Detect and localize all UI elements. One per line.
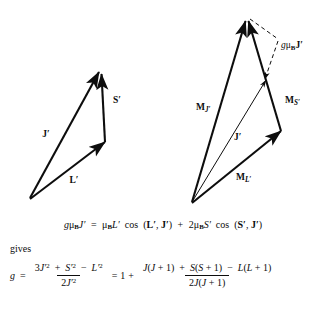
right-vector-diagram: MJ′ MS′ ML′ J′ gμBJ′ <box>192 19 303 203</box>
dashed-projection-to-J-prime <box>265 41 278 79</box>
label-M-S-prime: MS′ <box>285 95 300 107</box>
label-J-prime-right: J′ <box>234 132 242 142</box>
equals-sign-first: = <box>20 270 26 281</box>
equals-sign-second: = <box>112 270 118 281</box>
label-M-L-prime: ML′ <box>236 172 251 184</box>
left-fraction: 3J′2 + S′2 − L′2 2J′2 <box>31 262 107 288</box>
right-fraction: J(J + 1) + S(S + 1) − L(L + 1) 2J(J + 1) <box>139 262 275 288</box>
left-vector-triangle: J′ S′ L′ <box>30 72 121 199</box>
equation-one: gμBJ′ = μBL′ cos (L′, J′) + 2μBS′ cos (S… <box>0 219 326 230</box>
vector-J-prime-right <box>192 80 266 202</box>
constant-one: 1 <box>120 270 125 281</box>
label-M-J-prime: MJ′ <box>196 102 211 114</box>
plus-sign: + <box>128 270 134 281</box>
vector-L-prime-left <box>30 142 105 199</box>
right-fraction-denominator: 2J(J + 1) <box>185 275 229 289</box>
label-S-prime-left: S′ <box>113 95 121 105</box>
vector-J-prime-left <box>30 72 99 198</box>
figure-svg: J′ S′ L′ MJ′ MS′ ML′ J′ gμBJ′ <box>0 0 326 212</box>
equation-two-lead: g <box>10 270 15 281</box>
equation-two: g = 3J′2 + S′2 − L′2 2J′2 = 1 + J(J + 1)… <box>10 262 326 288</box>
gives-connector: gives <box>10 243 31 254</box>
vector-diagram-figure: J′ S′ L′ MJ′ MS′ ML′ J′ gμBJ′ <box>0 0 326 212</box>
vector-M-S-prime <box>249 21 282 131</box>
label-J-prime-left: J′ <box>42 129 50 139</box>
label-g-mu-B-J-prime: gμBJ′ <box>281 40 303 51</box>
vector-S-prime-left <box>102 74 106 142</box>
dashed-projection-from-apex <box>250 19 278 39</box>
left-fraction-numerator: 3J′2 + S′2 − L′2 <box>31 262 107 275</box>
left-fraction-denominator: 2J′2 <box>57 275 80 289</box>
label-L-prime-left: L′ <box>69 175 78 185</box>
right-fraction-numerator: J(J + 1) + S(S + 1) − L(L + 1) <box>139 262 275 275</box>
